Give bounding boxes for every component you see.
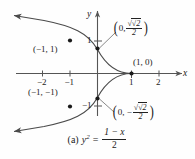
caption-equals-sign: = bbox=[93, 134, 99, 145]
x-axis-label: x bbox=[183, 69, 187, 79]
annotation-point-1-0: (1, 0) bbox=[133, 58, 153, 67]
right-paren-lower: ) bbox=[150, 105, 154, 119]
caption-fraction: 1 − x 2 bbox=[102, 128, 126, 150]
y-tick-label--1: −1 bbox=[82, 101, 92, 110]
right-paren-upper: ) bbox=[143, 21, 147, 35]
point-neg1-1 bbox=[68, 38, 72, 42]
figure-container: y x −2 −1 1 2 1 −1 (−1, 1) (−1, −1) (1, … bbox=[0, 0, 195, 159]
figure-caption: (a) y2 = 1 − x 2 bbox=[0, 128, 195, 150]
radicand-2-upper: √2 bbox=[131, 18, 140, 28]
x-tick-label-1: 1 bbox=[129, 78, 134, 87]
annotation-point-0-sqrt2over2: ( 0, √√2 2 ) bbox=[113, 19, 148, 37]
caption-denominator: 2 bbox=[110, 140, 119, 151]
left-paren-upper: ( bbox=[114, 21, 118, 35]
annotation-point-neg1-neg1: (−1, −1) bbox=[28, 88, 58, 97]
caption-numerator: 1 − x bbox=[102, 128, 126, 139]
fraction-denominator-lower: 2 bbox=[137, 113, 143, 121]
sqrt2-numerator-lower: √√2 bbox=[133, 104, 148, 112]
x-tick-label-2: 2 bbox=[156, 78, 161, 87]
point-neg1-neg1 bbox=[68, 104, 72, 108]
point-0-negsqrt2over2 bbox=[95, 96, 99, 100]
annotation-point-neg1-1: (−1, 1) bbox=[33, 45, 58, 54]
y-axis-label: y bbox=[87, 10, 91, 20]
point-0-sqrt2over2 bbox=[95, 46, 99, 50]
fraction-sqrt2-over-2: √√2 2 bbox=[126, 20, 141, 37]
fraction-neg-sqrt2-over-2: √√2 2 bbox=[133, 104, 148, 121]
left-paren-lower: ( bbox=[113, 105, 117, 119]
sqrt2-numerator: √√2 bbox=[126, 20, 141, 28]
annotation-lower-x: 0, − bbox=[118, 108, 132, 117]
annotation-point-0-negsqrt2over2: ( 0, − √√2 2 ) bbox=[112, 103, 155, 121]
x-tick-label--2: −2 bbox=[37, 78, 47, 87]
caption-exponent: 2 bbox=[86, 133, 90, 141]
caption-equation: y2 bbox=[82, 133, 90, 145]
annotation-upper-x: 0, bbox=[119, 24, 126, 33]
point-1-0 bbox=[129, 71, 133, 75]
caption-marker: (a) bbox=[68, 134, 79, 145]
x-tick-label--1: −1 bbox=[65, 78, 75, 87]
y-tick-label-1: 1 bbox=[87, 36, 92, 45]
radicand-2-lower: √2 bbox=[138, 102, 147, 112]
fraction-denominator-upper: 2 bbox=[131, 29, 137, 37]
